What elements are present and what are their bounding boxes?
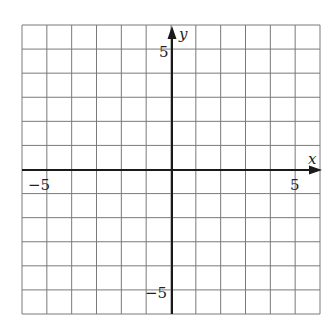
y-axis-arrow-icon	[168, 26, 177, 39]
x-axis-label: x	[308, 150, 317, 168]
y-tick-label-5: 5	[159, 43, 169, 61]
x-tick-label-5: 5	[290, 176, 300, 194]
y-tick-label-neg5: −5	[145, 284, 167, 302]
x-tick-label-neg5: −5	[28, 176, 50, 194]
coordinate-plane: x y −5 5 5 −5	[0, 0, 335, 336]
y-axis-label: y	[178, 25, 188, 43]
